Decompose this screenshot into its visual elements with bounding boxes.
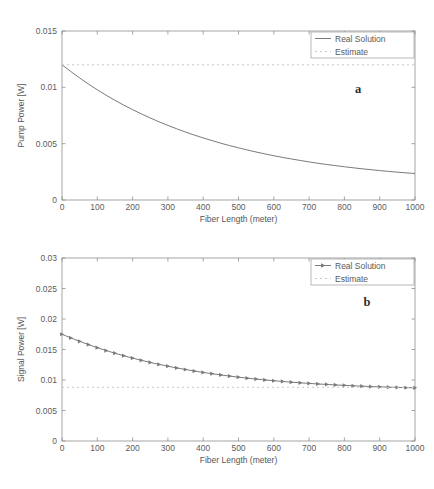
y-axis-tick-label: 0.01	[40, 82, 57, 92]
data-point-marker	[148, 360, 152, 364]
y-axis-tick-label: 0	[52, 436, 57, 446]
data-point-marker	[184, 367, 188, 371]
axes-frame	[62, 258, 415, 441]
data-point-marker	[325, 382, 329, 386]
x-axis-tick-label: 600	[267, 202, 281, 212]
x-axis-title: Fiber Length (meter)	[200, 214, 278, 224]
data-point-marker	[78, 339, 82, 343]
data-point-marker	[228, 374, 232, 378]
data-point-marker	[131, 356, 135, 360]
y-axis-tick-label: 0.005	[36, 139, 58, 149]
data-point-marker	[122, 354, 126, 358]
x-axis-tick-label: 800	[337, 443, 351, 453]
series-line-real-solution	[62, 65, 415, 174]
y-axis-tick-label: 0.02	[40, 314, 57, 324]
data-point-marker	[298, 381, 302, 385]
x-axis-tick-label: 100	[90, 202, 104, 212]
data-point-marker	[237, 375, 241, 379]
y-axis-title: Pump Power [W]	[16, 84, 26, 148]
data-point-marker	[246, 376, 250, 380]
chart-svg-b: 0100200300400500600700800900100000.0050.…	[0, 244, 434, 489]
x-axis-tick-label: 300	[161, 443, 175, 453]
x-axis-tick-label: 0	[60, 202, 65, 212]
y-axis-tick-label: 0.025	[36, 284, 58, 294]
data-point-marker	[113, 351, 117, 355]
x-axis-tick-label: 700	[302, 443, 316, 453]
x-axis-tick-label: 1000	[406, 202, 425, 212]
legend-label-real-solution: Real Solution	[335, 261, 386, 271]
data-point-marker	[140, 358, 144, 362]
x-axis-tick-label: 100	[90, 443, 104, 453]
x-axis-tick-label: 900	[373, 443, 387, 453]
data-point-marker	[201, 370, 205, 374]
y-axis-tick-label: 0.015	[36, 26, 58, 36]
data-point-marker	[307, 381, 311, 385]
x-axis-tick-label: 800	[337, 202, 351, 212]
data-point-marker	[69, 336, 73, 340]
chart-panel-a: 0100200300400500600700800900100000.0050.…	[0, 0, 434, 245]
y-axis-tick-label: 0.01	[40, 375, 57, 385]
x-axis-tick-label: 600	[267, 443, 281, 453]
x-axis-tick-label: 400	[196, 202, 210, 212]
data-point-marker	[290, 380, 294, 384]
y-axis-title: Signal Power [W]	[16, 317, 26, 382]
x-axis-tick-label: 900	[373, 202, 387, 212]
data-point-marker	[166, 364, 170, 368]
data-point-marker	[104, 348, 108, 352]
data-point-marker	[254, 377, 258, 381]
chart-panel-b: 0100200300400500600700800900100000.0050.…	[0, 244, 434, 489]
panel-letter-label: a	[355, 82, 362, 96]
legend-label-estimate: Estimate	[335, 47, 368, 57]
x-axis-tick-label: 700	[302, 202, 316, 212]
panel-letter-label: b	[364, 295, 371, 309]
data-point-marker	[193, 369, 197, 373]
data-point-marker	[175, 366, 179, 370]
data-point-marker	[281, 379, 285, 383]
x-axis-tick-label: 200	[126, 443, 140, 453]
chart-svg-a: 0100200300400500600700800900100000.0050.…	[0, 0, 434, 245]
x-axis-tick-label: 1000	[406, 443, 425, 453]
data-point-marker	[316, 382, 320, 386]
x-axis-title: Fiber Length (meter)	[200, 455, 278, 465]
data-point-marker	[334, 383, 338, 387]
data-point-marker	[369, 384, 373, 388]
data-point-marker	[263, 378, 267, 382]
x-axis-tick-label: 200	[126, 202, 140, 212]
x-axis-tick-label: 500	[231, 202, 245, 212]
x-axis-tick-label: 400	[196, 443, 210, 453]
plot-area-a: 0100200300400500600700800900100000.0050.…	[0, 0, 434, 245]
data-point-marker	[96, 346, 100, 350]
plot-area-b: 0100200300400500600700800900100000.0050.…	[0, 244, 434, 489]
data-point-marker	[219, 373, 223, 377]
series-line-real-solution	[62, 334, 415, 388]
data-point-marker	[210, 372, 214, 376]
data-point-marker	[272, 379, 276, 383]
legend-label-estimate: Estimate	[335, 274, 368, 284]
x-axis-tick-label: 300	[161, 202, 175, 212]
y-axis-tick-label: 0	[52, 195, 57, 205]
legend-label-real-solution: Real Solution	[335, 34, 386, 44]
y-axis-tick-label: 0.03	[40, 253, 57, 263]
x-axis-tick-label: 0	[60, 443, 65, 453]
y-axis-tick-label: 0.005	[36, 406, 58, 416]
data-point-marker	[157, 362, 161, 366]
y-axis-tick-label: 0.015	[36, 345, 58, 355]
x-axis-tick-label: 500	[231, 443, 245, 453]
data-point-marker	[87, 343, 91, 347]
